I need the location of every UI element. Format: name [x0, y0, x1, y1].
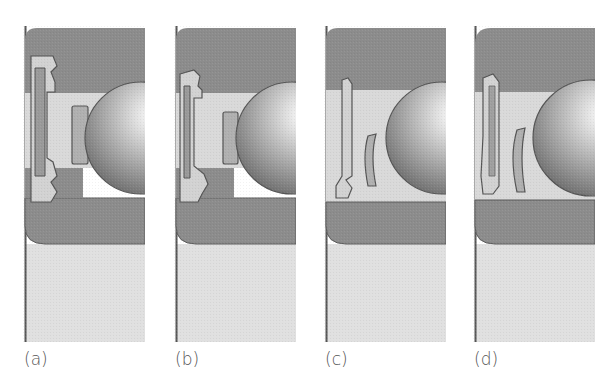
bearing-cross-section: [473, 26, 595, 342]
panel-d-bearing-seal-diagram: [473, 26, 595, 342]
bearing-cross-section: [23, 26, 145, 342]
panel-b-bearing-seal-diagram: [174, 26, 296, 342]
panel-c-bearing-seal-diagram: [324, 26, 446, 342]
panel-a-bearing-seal-diagram: [23, 26, 145, 342]
bearing-cross-section: [174, 26, 296, 342]
bearing-cross-section: [324, 26, 446, 342]
caption-a: (a): [24, 349, 48, 369]
caption-b: (b): [175, 349, 199, 369]
caption-d: (d): [474, 349, 498, 369]
caption-c: (c): [325, 349, 348, 369]
